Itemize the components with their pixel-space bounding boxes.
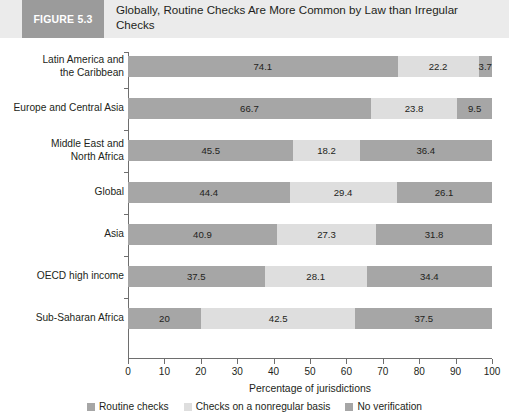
legend-item[interactable]: No verification	[345, 401, 422, 412]
bar-value-label: 37.5	[414, 313, 433, 324]
legend-label: No verification	[357, 401, 422, 412]
x-axis-tick-label: 90	[436, 366, 476, 377]
bar-segment: 23.8	[371, 98, 458, 119]
bar-value-label: 27.3	[317, 229, 336, 240]
bar-segment: 74.1	[128, 56, 398, 77]
bar-value-label: 66.7	[240, 103, 259, 114]
y-axis-tick	[124, 298, 129, 299]
bar-segment: 26.1	[397, 182, 492, 203]
bar-segment: 28.1	[265, 266, 367, 287]
bar-value-label: 31.8	[425, 229, 444, 240]
bar-row: 37.528.134.4	[128, 266, 492, 287]
bar-segment: 40.9	[128, 224, 277, 245]
bar-value-label: 9.5	[468, 103, 481, 114]
x-axis-tick-label: 20	[181, 366, 221, 377]
bar-segment: 3.7	[479, 56, 492, 77]
category-label-line: the Caribbean	[0, 67, 124, 79]
legend-item[interactable]: Checks on a nonregular basis	[184, 401, 331, 412]
bar-value-label: 34.4	[420, 271, 439, 282]
x-axis-tick	[492, 359, 493, 364]
bar-segment: 22.2	[398, 56, 479, 77]
y-axis-tick	[124, 88, 129, 89]
category-label: Global	[0, 186, 124, 198]
bar-value-label: 20	[159, 313, 170, 324]
category-label-line: Global	[0, 186, 124, 198]
x-axis-tick	[310, 359, 311, 364]
x-axis-tick	[419, 359, 420, 364]
x-axis-tick	[201, 359, 202, 364]
x-axis-tick-label: 70	[363, 366, 403, 377]
x-axis-tick-label: 10	[144, 366, 184, 377]
x-axis-tick-label: 30	[217, 366, 257, 377]
bar-row: 74.122.23.7	[128, 56, 492, 77]
bar-value-label: 29.4	[334, 187, 353, 198]
bar-segment: 66.7	[128, 98, 371, 119]
category-label-line: Middle East and	[0, 138, 124, 150]
bar-value-label: 36.4	[416, 145, 435, 156]
bar-segment: 44.4	[128, 182, 290, 203]
bar-value-label: 44.4	[199, 187, 218, 198]
bar-value-label: 28.1	[306, 271, 325, 282]
legend-label: Checks on a nonregular basis	[196, 401, 331, 412]
x-axis-tick	[164, 359, 165, 364]
y-axis-tick	[124, 130, 129, 131]
bar-segment: 18.2	[293, 140, 359, 161]
category-label: Sub-Saharan Africa	[0, 312, 124, 324]
y-axis-tick	[124, 52, 129, 53]
bar-segment: 36.4	[360, 140, 492, 161]
legend-label: Routine checks	[99, 401, 169, 412]
bar-value-label: 37.5	[187, 271, 206, 282]
y-axis-tick	[124, 214, 129, 215]
category-label: Middle East andNorth Africa	[0, 138, 124, 163]
category-label: Latin America andthe Caribbean	[0, 54, 124, 79]
bar-value-label: 26.1	[435, 187, 454, 198]
x-axis-tick	[237, 359, 238, 364]
x-axis-tick-label: 40	[254, 366, 294, 377]
bar-value-label: 40.9	[193, 229, 212, 240]
y-axis-tick	[124, 256, 129, 257]
bar-segment: 31.8	[376, 224, 492, 245]
bar-value-label: 18.2	[317, 145, 336, 156]
bar-segment: 9.5	[457, 98, 492, 119]
chart-area: 74.122.23.766.723.89.545.518.236.444.429…	[0, 38, 509, 416]
legend-swatch-icon	[345, 403, 353, 411]
x-axis-title: Percentage of jurisdictions	[128, 383, 492, 394]
category-label-line: North Africa	[0, 151, 124, 163]
bar-segment: 27.3	[277, 224, 376, 245]
bar-row: 2042.537.5	[128, 308, 492, 329]
bar-row: 66.723.89.5	[128, 98, 492, 119]
x-axis-tick-label: 60	[326, 366, 366, 377]
x-axis-tick	[383, 359, 384, 364]
bar-value-label: 42.5	[269, 313, 288, 324]
bar-value-label: 23.8	[405, 103, 424, 114]
category-label: Asia	[0, 228, 124, 240]
bar-value-label: 22.2	[429, 61, 448, 72]
figure-number-tag: FIGURE 5.3	[22, 0, 104, 38]
category-label-line: Asia	[0, 228, 124, 240]
bar-segment: 37.5	[128, 266, 265, 287]
x-axis-tick	[346, 359, 347, 364]
bar-row: 40.927.331.8	[128, 224, 492, 245]
bar-value-label: 45.5	[201, 145, 220, 156]
bar-row: 45.518.236.4	[128, 140, 492, 161]
category-label-line: Sub-Saharan Africa	[0, 312, 124, 324]
legend-swatch-icon	[184, 403, 192, 411]
x-axis-tick-label: 0	[108, 366, 148, 377]
bar-segment: 42.5	[201, 308, 356, 329]
x-axis-tick	[456, 359, 457, 364]
legend-swatch-icon	[87, 403, 95, 411]
category-label-line: Europe and Central Asia	[0, 102, 124, 114]
y-axis-tick	[124, 172, 129, 173]
x-axis-tick	[128, 359, 129, 364]
bar-segment: 45.5	[128, 140, 293, 161]
figure-title: Globally, Routine Checks Are More Common…	[116, 3, 496, 32]
bar-segment: 29.4	[290, 182, 397, 203]
bar-segment: 37.5	[355, 308, 492, 329]
category-label-line: OECD high income	[0, 270, 124, 282]
category-label-line: Latin America and	[0, 54, 124, 66]
bar-segment: 20	[128, 308, 201, 329]
x-axis-tick	[274, 359, 275, 364]
bar-value-label: 74.1	[254, 61, 273, 72]
legend-item[interactable]: Routine checks	[87, 401, 169, 412]
bar-row: 44.429.426.1	[128, 182, 492, 203]
